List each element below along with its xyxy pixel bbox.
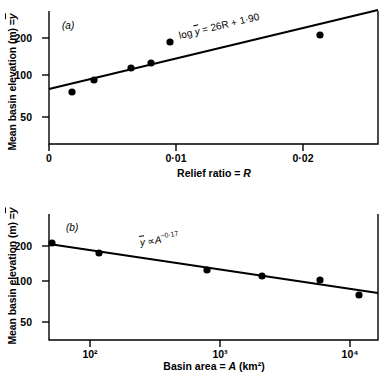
x-axis-label-b: Basin area = A (km²) (49, 360, 379, 372)
data-points-a (68, 31, 323, 95)
ytick-label-200-a: 200 (0, 32, 32, 44)
ytick-label-100-a: 100 (0, 69, 32, 81)
y-axis-label-a-symbol: y (6, 13, 18, 19)
annotation-b-exponent: −0·17 (160, 230, 178, 240)
data-point (316, 276, 323, 283)
ytick-label-100-b: 100 (0, 275, 32, 287)
plot-b-axes (49, 214, 378, 340)
data-point (355, 291, 362, 298)
data-point (258, 272, 265, 279)
chart-panel-b: Mean basin elevation (m) =y Basin area =… (0, 194, 383, 388)
panel-tag-a: (a) (62, 20, 74, 31)
x-axis-label-b-text: Basin area = (163, 360, 225, 372)
x-axis-label-a-text: Relief ratio = (177, 167, 240, 179)
x-axis-label-b-symbol: A (228, 360, 236, 372)
data-point (127, 64, 134, 71)
x-axis-label-b-units: (km²) (239, 360, 265, 372)
data-point (68, 88, 75, 95)
plot-a-yticks (42, 38, 49, 117)
data-point (90, 76, 97, 83)
axis-frame-b (49, 214, 378, 340)
data-point (48, 239, 55, 246)
xtick-label-0-a: 0 (24, 152, 74, 164)
annotation-a-symbol: y (193, 25, 200, 37)
x-axis-label-a-symbol: R (243, 167, 251, 179)
plot-b-xticks (90, 340, 350, 347)
data-point (147, 59, 154, 66)
xtick-label-1e3-b: 10³ (195, 348, 245, 360)
ytick-label-50-a: 50 (0, 111, 32, 123)
ytick-label-50-b: 50 (0, 316, 32, 328)
y-axis-label-b-symbol: y (6, 207, 18, 213)
panel-tag-b: (b) (66, 222, 78, 233)
data-point (95, 249, 102, 256)
plot-b-yticks (42, 246, 49, 322)
ytick-label-200-b: 200 (0, 240, 32, 252)
xtick-label-1e4-b: 10⁴ (325, 348, 375, 360)
xtick-label-002-a: 0·02 (278, 152, 328, 164)
y-axis-label-a: Mean basin elevation (m) =y (6, 7, 18, 157)
xtick-label-001-a: 0·01 (151, 152, 201, 164)
data-point (203, 266, 210, 273)
xtick-label-1e2-b: 10² (65, 348, 115, 360)
chart-panel-a: Mean basin elevation (m) =y Relief ratio… (0, 0, 383, 194)
plot-a-xticks (49, 144, 303, 151)
annotation-b-symbol: y (139, 236, 146, 248)
data-points-b (48, 239, 362, 298)
data-point (166, 38, 173, 45)
data-point (316, 31, 323, 38)
x-axis-label-a: Relief ratio = R (49, 167, 379, 179)
